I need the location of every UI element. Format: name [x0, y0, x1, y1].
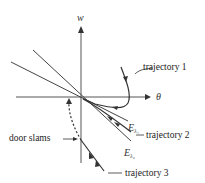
trajectory-3-arrow-icon [89, 152, 94, 159]
door-slams-dashed-path [69, 100, 81, 140]
door-slams-label: door slams [9, 133, 51, 143]
phase-plane-diagram: w θ Eλ₁ Eλ₂ trajectory 1 trajectory 2 tr… [0, 0, 205, 183]
door-slams-arrow-icon [66, 98, 72, 104]
eigenline-1 [11, 62, 128, 121]
eigenline-2-label: Eλ₂ [123, 147, 135, 159]
trajectory-1-arrow-icon [123, 76, 128, 82]
arrow-right-icon [145, 94, 151, 100]
trajectory-1-curve [84, 67, 129, 108]
trajectory-3-arrow-icon [95, 160, 100, 167]
y-axis-label: w [77, 12, 84, 23]
eigenline-1-label: Eλ₁ [127, 122, 139, 134]
trajectory-3-curve [81, 140, 104, 171]
x-axis-label: θ [156, 91, 161, 102]
eigenline-2 [33, 50, 131, 141]
trajectory-2-curve [83, 99, 131, 132]
arrow-up-icon [78, 26, 84, 33]
trajectory-1-arrow-icon [112, 106, 118, 110]
trajectory-2-label: trajectory 2 [146, 130, 190, 140]
trajectory-1-label: trajectory 1 [143, 62, 187, 72]
trajectory-3-label: trajectory 3 [125, 168, 169, 178]
door-slams-pointer-icon [73, 137, 78, 141]
